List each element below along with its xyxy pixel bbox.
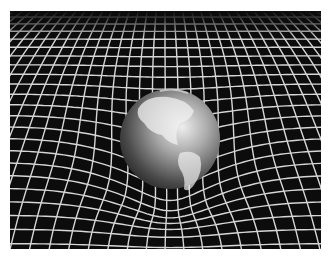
grid-and-globe-graphic bbox=[10, 11, 321, 249]
spacetime-illustration bbox=[10, 11, 321, 249]
